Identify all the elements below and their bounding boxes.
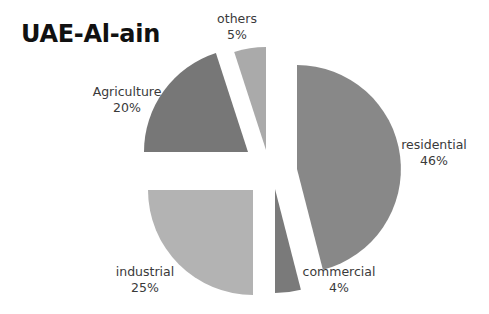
label-others-name: others	[217, 11, 257, 27]
label-residential-pct: 46%	[401, 153, 467, 169]
label-industrial-pct: 25%	[116, 280, 174, 296]
label-commercial: commercial 4%	[303, 264, 376, 296]
label-residential: residential 46%	[401, 137, 467, 169]
label-commercial-name: commercial	[303, 264, 376, 280]
label-commercial-pct: 4%	[303, 280, 376, 296]
label-residential-name: residential	[401, 137, 467, 153]
chart-title: UAE-Al-ain	[21, 20, 160, 48]
label-agriculture-name: Agriculture	[93, 84, 162, 100]
label-agriculture: Agriculture 20%	[93, 84, 162, 116]
label-industrial-name: industrial	[116, 264, 174, 280]
label-others-pct: 5%	[217, 27, 257, 43]
slice-residential	[297, 65, 401, 270]
label-agriculture-pct: 20%	[93, 100, 162, 116]
label-others: others 5%	[217, 11, 257, 43]
slice-commercial	[275, 189, 301, 293]
label-industrial: industrial 25%	[116, 264, 174, 296]
